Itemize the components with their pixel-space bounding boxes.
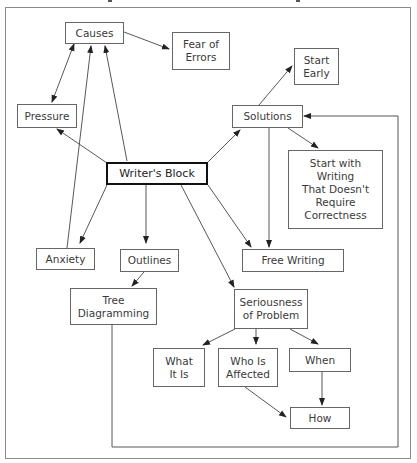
node-outlines: Outlines: [120, 249, 179, 272]
node-causes: Causes: [65, 22, 124, 44]
node-who-is-affected: Who Is Affected: [218, 348, 278, 387]
node-writers-block: Writer's Block: [106, 162, 208, 185]
node-pressure: Pressure: [17, 104, 77, 128]
node-free-writing: Free Writing: [242, 249, 344, 272]
node-what-it-is: What It Is: [153, 348, 205, 387]
node-how: How: [290, 407, 350, 429]
node-seriousness-of-problem: Seriousness of Problem: [234, 289, 308, 329]
node-start-with-writing: Start with Writing That Doesn't Require …: [288, 150, 383, 229]
node-start-early: Start Early: [294, 48, 339, 85]
node-solutions: Solutions: [232, 105, 303, 128]
node-tree-diagramming: Tree Diagramming: [70, 288, 157, 325]
node-anxiety: Anxiety: [36, 248, 95, 270]
node-fear-of-errors: Fear of Errors: [172, 32, 230, 70]
node-when: When: [289, 348, 351, 372]
